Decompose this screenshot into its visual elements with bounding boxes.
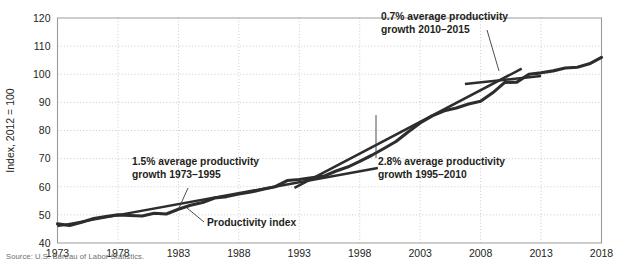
source-note: Source: U.S. Bureau of Labor Statistics. <box>6 252 144 261</box>
annotation-0-7-leader <box>487 30 499 71</box>
y-tick-label: 120 <box>33 12 51 24</box>
annotation-1-5-line2: growth 1973–1995 <box>132 169 221 180</box>
annotation-2-8-line1: 2.8% average productivity <box>378 156 505 167</box>
x-tick-label: 2018 <box>590 247 614 259</box>
y-tick-label: 50 <box>39 209 51 221</box>
x-tick-label: 2003 <box>408 247 432 259</box>
y-tick-label: 60 <box>39 181 51 193</box>
annotation-0-7-line2: growth 2010–2015 <box>381 24 470 35</box>
x-tick-label: 1983 <box>167 247 191 259</box>
annotation-2-8-line2: growth 1995–2010 <box>378 169 467 180</box>
x-tick-label: 2008 <box>469 247 493 259</box>
y-tick-label: 70 <box>39 152 51 164</box>
annotation-1-5-line1: 1.5% average productivity <box>132 156 259 167</box>
annotation-0-7-line1: 0.7% average productivity <box>381 11 508 22</box>
productivity-index-chart: 4050607080901001101201973197819831988199… <box>0 0 625 267</box>
x-tick-label: 1988 <box>227 247 251 259</box>
y-axis-title: Index, 2012 = 100 <box>4 88 16 173</box>
y-tick-label: 80 <box>39 124 51 136</box>
y-tick-label: 110 <box>34 40 51 52</box>
chart-canvas: 4050607080901001101201973197819831988199… <box>0 0 625 267</box>
x-tick-label: 1998 <box>348 247 372 259</box>
productivity-index-line <box>58 57 602 225</box>
y-tick-label: 100 <box>33 68 51 80</box>
x-tick-label: 2013 <box>529 247 553 259</box>
y-tick-label: 90 <box>39 96 51 108</box>
annotation-productivity-index-line1: Productivity index <box>207 217 297 228</box>
x-tick-label: 1993 <box>288 247 312 259</box>
